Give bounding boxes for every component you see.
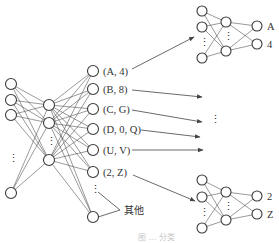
arrow-b-8 xyxy=(132,90,202,97)
sub-hidden-node xyxy=(221,215,231,225)
figure-caption: 图 ... 分类 xyxy=(138,232,175,242)
label-c-g: (C, G) xyxy=(103,104,130,116)
diagram-canvas: ⋮ ⋮ ⋮ (A, 4) (B, 8) (C, G) (D, 0, Q) (U,… xyxy=(0,0,279,243)
label-u-v: (U, V) xyxy=(103,145,131,157)
arrow-a-4 xyxy=(132,37,194,69)
label-d-0-q: (D, 0, Q) xyxy=(103,124,141,136)
label-b-8: (B, 8) xyxy=(103,84,128,96)
arrow-2-z xyxy=(133,175,195,201)
output-node xyxy=(88,104,99,115)
sub-hidden-ellipsis: ⋮ xyxy=(223,201,234,212)
sub-bottom-label-z: Z xyxy=(267,209,273,220)
output-node xyxy=(88,145,99,156)
sub-output-node xyxy=(252,209,262,219)
output-node-other xyxy=(88,212,99,223)
main-output-layer: ⋮ xyxy=(88,66,102,223)
other-brace xyxy=(98,192,120,217)
sub-network-bottom: ⋮ ⋮ 2 Z xyxy=(197,175,273,233)
sub-input-ellipsis: ⋮ xyxy=(199,207,210,218)
output-node xyxy=(88,124,99,135)
input-node xyxy=(6,110,17,121)
sub-hidden-ellipsis: ⋮ xyxy=(223,31,234,42)
hidden-node xyxy=(44,155,55,166)
sub-bottom-label-2: 2 xyxy=(267,191,272,202)
label-2-z: (2, Z) xyxy=(103,167,127,179)
arrow-c-g xyxy=(132,110,202,122)
sub-input-node xyxy=(197,175,207,185)
input-ellipsis: ⋮ xyxy=(8,153,19,164)
sub-top-label-4: 4 xyxy=(267,39,273,50)
hidden-node xyxy=(44,100,55,111)
sub-network-ellipsis: ⋮ xyxy=(210,114,221,125)
sub-input-ellipsis: ⋮ xyxy=(199,37,210,48)
routing-arrows: ⋮ xyxy=(132,37,221,201)
sub-output-node xyxy=(252,191,262,201)
sub-input-node xyxy=(197,53,207,63)
sub-hidden-node xyxy=(221,187,231,197)
output-labels: (A, 4) (B, 8) (C, G) (D, 0, Q) (U, V) (2… xyxy=(98,66,144,217)
sub-input-node xyxy=(197,6,207,16)
arrow-d-0-q xyxy=(141,130,200,137)
sub-input-node xyxy=(197,223,207,233)
sub-input-node xyxy=(197,192,207,202)
label-other: 其他 xyxy=(124,204,144,216)
input-node xyxy=(6,79,17,90)
sub-top-label-a: A xyxy=(267,21,275,32)
sub-hidden-node xyxy=(221,46,231,56)
sub-output-node xyxy=(252,39,262,49)
output-node xyxy=(88,84,99,95)
sub-input-node xyxy=(197,22,207,32)
sub-output-node xyxy=(252,21,262,31)
label-a-4: (A, 4) xyxy=(103,66,129,78)
sub-network-top: ⋮ ⋮ A 4 xyxy=(197,6,275,63)
hidden-ellipsis: ⋮ xyxy=(46,136,57,147)
output-node xyxy=(88,167,99,178)
output-node xyxy=(88,66,99,77)
input-node xyxy=(6,188,17,199)
hidden-node xyxy=(44,118,55,129)
sub-hidden-node xyxy=(221,17,231,27)
input-node xyxy=(6,95,17,106)
